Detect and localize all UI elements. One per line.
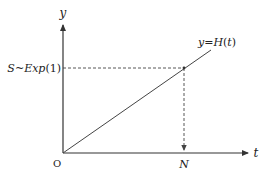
curve-label-close: ) [232, 36, 236, 49]
curve-h-of-t [63, 50, 211, 153]
threshold-label-param: (1) [45, 62, 61, 75]
curve-label-func: H [212, 36, 223, 49]
curve-label: y=H(t) [197, 36, 236, 49]
intersection-x-label: N [178, 158, 189, 171]
curve-label-eq: = [204, 36, 213, 49]
t-axis-label: t [254, 146, 259, 160]
threshold-label-tilde: ~ [15, 62, 24, 75]
intersection-point [183, 67, 186, 70]
origin-label: O [53, 158, 61, 169]
diagram-canvas: y t O y=H(t) S~Exp(1) N [0, 0, 268, 174]
threshold-label-dist: Exp [23, 62, 45, 75]
y-axis-label: y [59, 6, 67, 20]
threshold-label: S~Exp(1) [7, 62, 61, 75]
